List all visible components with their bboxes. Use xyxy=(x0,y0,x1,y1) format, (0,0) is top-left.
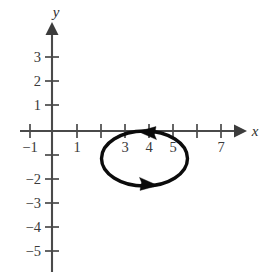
x-axis-arrowhead xyxy=(234,125,247,138)
x-tick-label-7: 7 xyxy=(217,139,224,155)
y-tick-label-2: 2 xyxy=(34,73,41,89)
x-tick-label-1: 1 xyxy=(73,139,80,155)
coordinate-plane-svg: x y xyxy=(0,0,262,272)
y-tick-label--3: −3 xyxy=(26,195,41,211)
x-axis-label: x xyxy=(251,123,259,139)
direction-arrow-top-left xyxy=(138,127,157,140)
y-tick-label--2: −2 xyxy=(26,171,41,187)
y-tick-label-3: 3 xyxy=(34,49,41,65)
ellipse-curve-group xyxy=(102,127,188,191)
x-tick-label-3: 3 xyxy=(121,139,128,155)
y-tick-label--4: −4 xyxy=(26,219,42,235)
x-tick-label-4: 4 xyxy=(145,139,153,155)
y-axis-group: y xyxy=(46,4,60,272)
y-axis-arrowhead xyxy=(46,22,59,35)
y-tick-label--5: −5 xyxy=(26,243,41,259)
y-axis-label: y xyxy=(51,4,60,20)
x-tick-label--1: −1 xyxy=(22,139,37,155)
graph-figure: x y xyxy=(0,0,262,272)
y-tick-label-1: 1 xyxy=(34,97,41,113)
